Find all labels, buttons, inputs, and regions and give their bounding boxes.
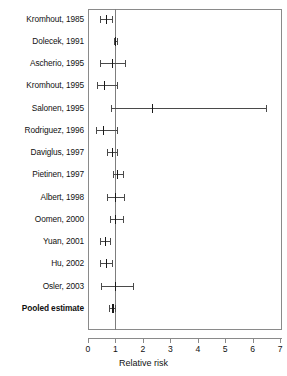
x-axis-tick-label: 0 [81, 344, 95, 354]
x-axis-tick [115, 339, 116, 343]
x-axis-tick [280, 339, 281, 343]
x-axis-title: Relative risk [0, 358, 287, 368]
forest-plot-figure: Kromhout, 1985 Dolecek, 1991 Ascherio, 1… [0, 0, 287, 376]
x-axis-tick-label: 1 [108, 344, 122, 354]
x-axis-tick [88, 339, 89, 343]
x-axis-tick [198, 339, 199, 343]
x-axis-tick-label: 6 [246, 344, 260, 354]
x-axis-tick-label: 4 [191, 344, 205, 354]
x-axis-tick [143, 339, 144, 343]
x-axis-tick-label: 5 [218, 344, 232, 354]
x-axis-tick-label: 2 [136, 344, 150, 354]
x-axis-tick-label: 7 [273, 344, 287, 354]
x-axis-tick [253, 339, 254, 343]
x-axis-tick [225, 339, 226, 343]
x-axis-tick-layer: 01234567 [0, 0, 287, 376]
x-axis-tick [170, 339, 171, 343]
x-axis-tick-label: 3 [163, 344, 177, 354]
